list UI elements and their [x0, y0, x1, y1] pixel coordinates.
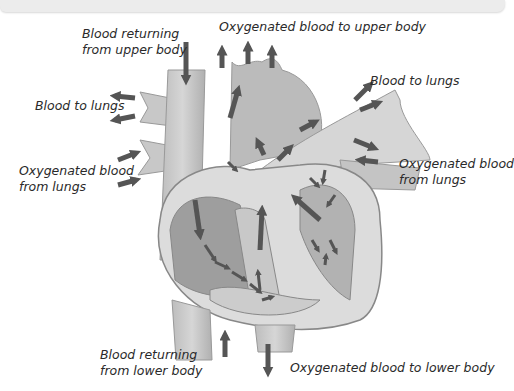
label-upper-return: Blood returning from upper body — [82, 26, 187, 58]
label-upper-out: Oxygenated blood to upper body — [219, 19, 426, 35]
label-lungs-left: Blood to lungs — [35, 98, 125, 114]
label-line: from lungs — [19, 179, 134, 195]
label-from-lungs-right: Oxygenated blood from lungs — [399, 156, 514, 188]
label-line: from upper body — [82, 42, 187, 58]
label-lower-return: Blood returning from lower body — [100, 347, 202, 379]
label-lower-out: Oxygenated blood to lower body — [290, 360, 495, 376]
descending-aorta — [255, 325, 295, 352]
label-from-lungs-left: Oxygenated blood from lungs — [19, 163, 134, 195]
label-line: Oxygenated blood — [399, 156, 514, 172]
label-line: Oxygenated blood — [19, 163, 134, 179]
label-line: from lower body — [100, 363, 202, 379]
label-line: Blood returning — [82, 26, 187, 42]
label-line: Blood returning — [100, 347, 202, 363]
label-lungs-right: Blood to lungs — [370, 73, 460, 89]
label-line: from lungs — [399, 172, 514, 188]
